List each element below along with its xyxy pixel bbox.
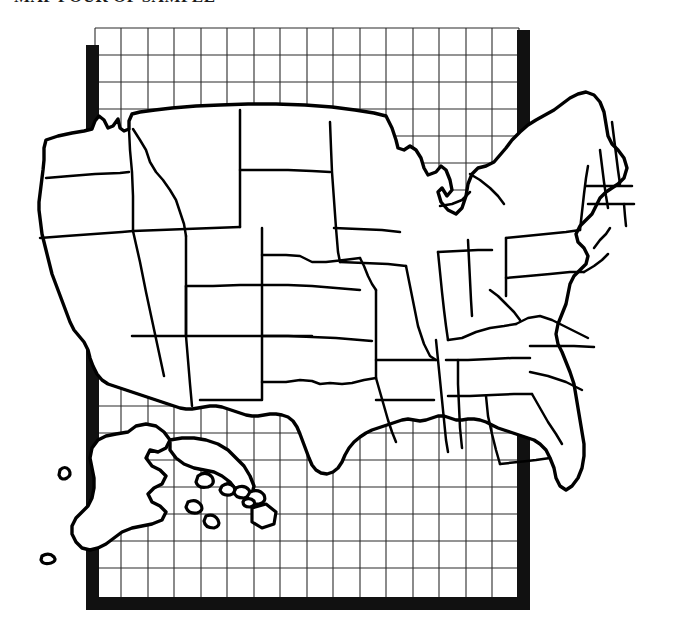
hawaii-island-kauai [196,473,213,487]
map-figure: MAP FOUR OF SAMPLE [0,0,681,639]
aleutian-island-4 [204,515,219,528]
hawaii-island-big-island [252,504,276,528]
map-canvas [0,0,681,639]
aleutian-island-1 [59,468,70,480]
frame-bottom-bar [86,597,530,610]
hawaii-island-lanai [243,499,255,507]
aleutian-island-2 [41,554,55,563]
us-coastline-outline [39,92,627,490]
hawaii-island-oahu [220,484,235,495]
aleutian-island-3 [186,501,202,514]
